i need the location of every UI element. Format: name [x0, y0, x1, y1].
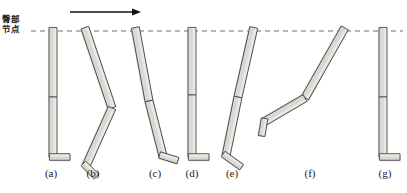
hip-joint-label: 臀部 节点 [2, 14, 36, 34]
hip-joint-label-line2: 节点 [2, 24, 36, 34]
panel-caption-e: (e) [226, 167, 238, 179]
panel-caption-f: (f) [305, 167, 316, 179]
leg-pose-c [130, 27, 179, 165]
pose-c-shank [144, 100, 167, 158]
pose-a-foot-highlight [50, 155, 69, 157]
pose-g-foot-highlight [380, 155, 399, 157]
panel-caption-a: (a) [45, 167, 57, 179]
pose-c-thigh [130, 27, 153, 103]
leg-pose-f [257, 25, 348, 137]
leg-pose-g [378, 27, 401, 161]
pose-a-thigh-highlight [54, 28, 56, 96]
leg-pose-e [221, 26, 258, 171]
panel-caption-c: (c) [149, 167, 161, 179]
leg-pose-b [80, 26, 116, 180]
pose-e-thigh [233, 26, 258, 98]
pose-f-thigh [300, 25, 348, 100]
panel-caption-b: (b) [87, 167, 100, 179]
leg-pose-a [48, 27, 71, 161]
pose-a-shank [48, 97, 57, 158]
pose-d-thigh-highlight [193, 28, 195, 94]
pose-g-thigh [378, 27, 387, 98]
pose-d-shank [187, 95, 196, 158]
direction-arrow-head [132, 9, 141, 16]
direction-arrow-layer [70, 9, 141, 16]
pose-g-thigh-highlight [384, 28, 386, 96]
panel-caption-g: (g) [379, 167, 392, 179]
pose-f-thigh-highlight [306, 29, 347, 99]
pose-f-foot [257, 118, 268, 138]
gait-cycle-figure: 臀部 节点 (a)(b)(c)(d)(e)(f)(g) [0, 0, 407, 193]
hip-joint-label-line1: 臀部 [2, 14, 36, 24]
leg-pose-d [187, 27, 210, 161]
pose-b-thigh [80, 26, 116, 110]
pose-a-foot [49, 154, 71, 162]
pose-d-foot [188, 154, 210, 162]
pose-g-shank-highlight [384, 98, 386, 156]
pose-b-thigh-highlight [86, 27, 115, 107]
pose-g-foot [379, 154, 401, 162]
panel-caption-d: (d) [186, 167, 199, 179]
pose-g-shank [378, 97, 387, 158]
leg-poses-layer [48, 25, 401, 180]
pose-a-thigh [48, 27, 57, 98]
pose-f-shank-highlight [265, 99, 306, 124]
pose-b-shank-highlight [87, 109, 115, 167]
pose-d-foot-highlight [189, 155, 208, 157]
pose-c-foot [158, 152, 179, 165]
pose-b-shank [81, 106, 116, 169]
pose-d-shank-highlight [193, 96, 195, 156]
pose-d-thigh [187, 27, 196, 96]
gait-diagram-svg [0, 0, 407, 193]
pose-e-shank [221, 96, 242, 158]
pose-a-shank-highlight [54, 98, 56, 156]
